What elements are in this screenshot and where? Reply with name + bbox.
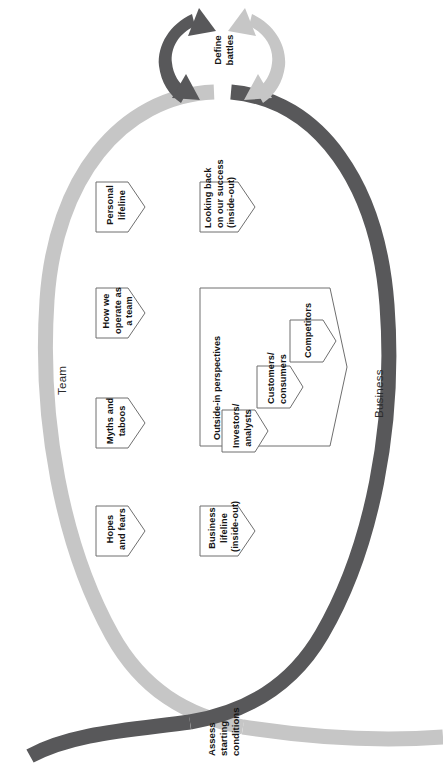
line-1: Hopes	[105, 506, 117, 552]
line-1: Business	[207, 504, 219, 552]
entry-label-line3: conditions	[230, 694, 242, 756]
label-hopes-and-fears: Hopes and fears	[105, 506, 128, 552]
label-outside-in-perspectives: Outside-in perspectives	[212, 336, 224, 440]
line-1: Personal	[105, 182, 117, 228]
line-1: Customers/	[266, 364, 278, 404]
label-how-we-operate: How we operate as a team	[101, 288, 136, 334]
entry-label-line2: starting	[218, 694, 230, 756]
branch-label-business: Business	[372, 369, 385, 418]
diagram-canvas: Define battles Team Business Assess star…	[0, 0, 443, 763]
entry-label-line1: Assess	[206, 694, 218, 756]
line-1: Investors/	[231, 408, 243, 448]
line-3: (inside-out)	[226, 180, 238, 228]
label-investors-analysts: Investors/ analysts	[231, 408, 254, 448]
label-customers-consumers: Customers/ consumers	[266, 364, 289, 404]
line-2: and fears	[117, 506, 129, 552]
cycle-label-line1: Define	[212, 15, 224, 85]
team-boxes	[96, 182, 145, 556]
cycle-node-label: Define battles	[212, 15, 235, 85]
line-1: Myths and	[105, 398, 117, 444]
entry-node-label: Assess starting conditions	[206, 694, 241, 756]
line-3: (inside-out)	[230, 504, 242, 552]
line-2: operate as	[113, 288, 125, 334]
label-myths-and-taboos: Myths and taboos	[105, 398, 128, 444]
line-2: lifeline	[117, 182, 129, 228]
label-competitors: Competitors	[303, 318, 315, 358]
team-band-tail	[243, 727, 443, 739]
business-band-tail	[30, 722, 190, 756]
line-1: How we	[101, 288, 113, 334]
line-2: consumers	[278, 364, 290, 404]
line-2: analysts	[243, 408, 255, 448]
line-2: on our success	[215, 180, 227, 228]
label-personal-lifeline: Personal lifeline	[105, 182, 128, 228]
line-2: lifeline	[219, 504, 231, 552]
branch-label-team: Team	[55, 366, 68, 395]
label-business-lifeline: Business lifeline (inside-out)	[207, 504, 242, 552]
line-1: Looking back	[203, 180, 215, 228]
line-1: Competitors	[303, 318, 315, 358]
cycle-label-line2: battles	[224, 15, 236, 85]
label-looking-back: Looking back on our success (inside-out)	[203, 180, 238, 228]
line-2: taboos	[117, 398, 129, 444]
line-3: a team	[124, 288, 136, 334]
